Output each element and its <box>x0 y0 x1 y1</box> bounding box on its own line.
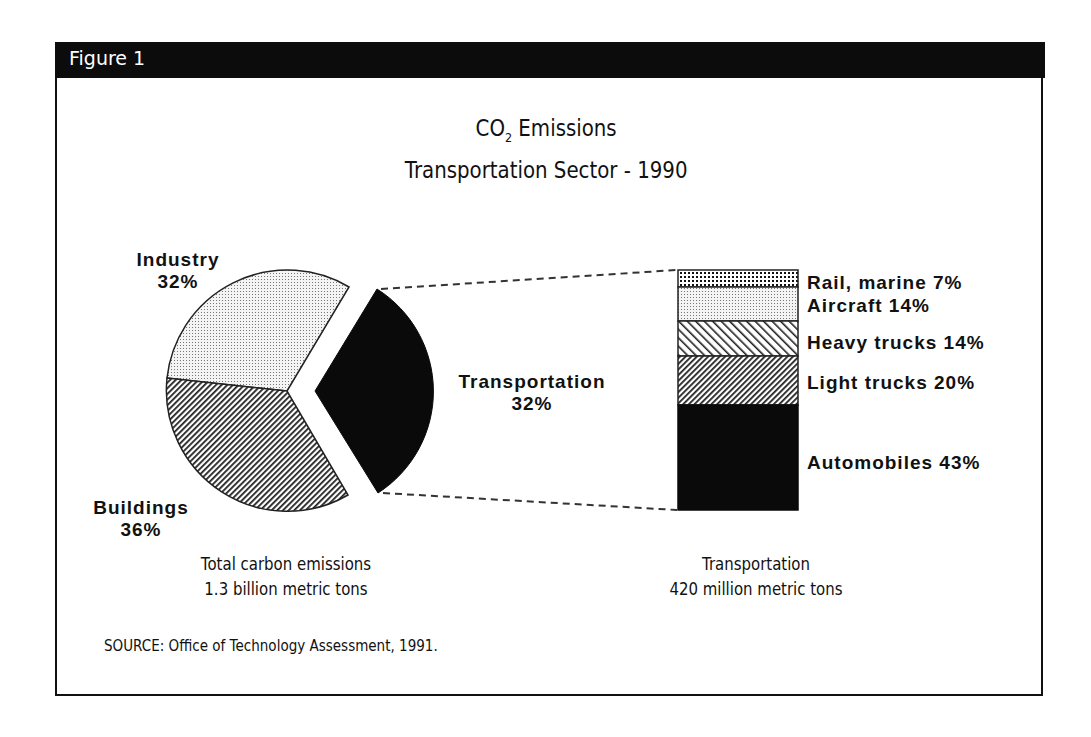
pie-caption-line2: 1.3 billion metric tons <box>154 577 418 602</box>
pie-caption: Total carbon emissions 1.3 billion metri… <box>154 552 418 602</box>
connector-top <box>381 270 677 289</box>
label-buildings: Buildings 36% <box>86 497 196 541</box>
bar-caption-line1: Transportation <box>624 552 888 577</box>
label-industry: Industry 32% <box>118 249 238 293</box>
bar-label-automobiles: Automobiles 43% <box>807 452 980 474</box>
label-buildings-name: Buildings <box>86 497 196 519</box>
source-note: SOURCE: Office of Technology Assessment,… <box>104 637 438 655</box>
bar-label-light-trucks: Light trucks 20% <box>807 372 975 394</box>
bar-segment-heavy-trucks <box>678 321 798 356</box>
bar-segment-automobiles <box>678 405 798 510</box>
bar-label-aircraft: Aircraft 14% <box>807 295 930 317</box>
bar-caption: Transportation 420 million metric tons <box>624 552 888 602</box>
connector-bottom <box>383 493 677 510</box>
label-industry-name: Industry <box>118 249 238 271</box>
bar-caption-line2: 420 million metric tons <box>624 577 888 602</box>
label-transportation: Transportation 32% <box>434 371 630 415</box>
bar-segment-light-trucks <box>678 356 798 405</box>
bar-segment-rail-marine <box>678 270 798 287</box>
pie-caption-line1: Total carbon emissions <box>154 552 418 577</box>
bar-label-heavy-trucks: Heavy trucks 14% <box>807 332 985 354</box>
label-buildings-pct: 36% <box>86 519 196 541</box>
label-transportation-pct: 32% <box>434 393 630 415</box>
pie-slice-transportation <box>315 289 433 493</box>
bar-segment-aircraft <box>678 287 798 321</box>
bar-label-rail-marine: Rail, marine 7% <box>807 272 962 294</box>
label-industry-pct: 32% <box>118 271 238 293</box>
label-transportation-name: Transportation <box>434 371 630 393</box>
chart-graphics <box>0 0 1091 737</box>
